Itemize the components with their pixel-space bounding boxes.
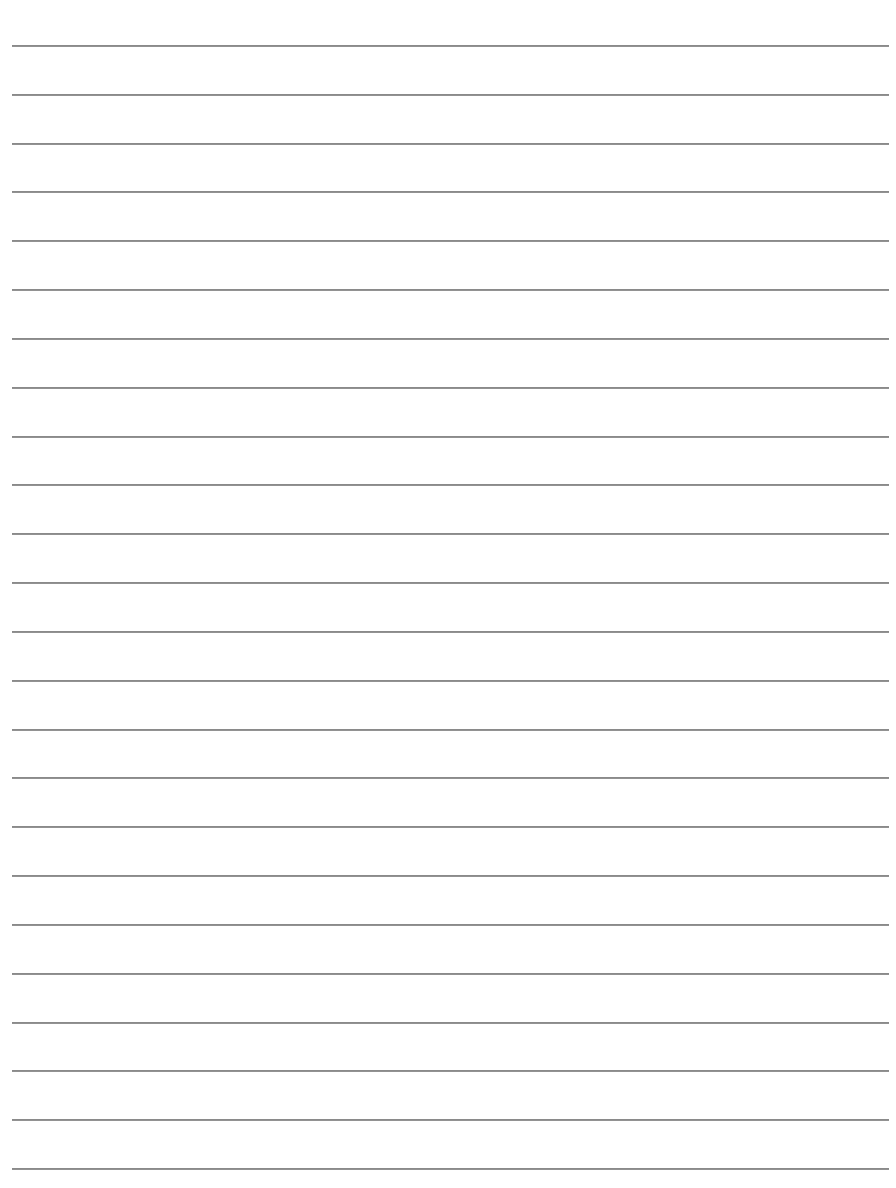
ruled-line — [12, 338, 889, 340]
ruled-line — [12, 240, 889, 242]
ruled-line — [12, 777, 889, 779]
ruled-line — [12, 1119, 889, 1121]
ruled-line — [12, 436, 889, 438]
ruled-line — [12, 484, 889, 486]
ruled-line — [12, 533, 889, 535]
ruled-line — [12, 680, 889, 682]
ruled-line — [12, 1022, 889, 1024]
ruled-line — [12, 973, 889, 975]
ruled-line — [12, 45, 889, 47]
ruled-line — [12, 143, 889, 145]
lined-paper-page — [0, 0, 896, 1188]
ruled-line — [12, 191, 889, 193]
ruled-line — [12, 387, 889, 389]
ruled-line — [12, 631, 889, 633]
ruled-line — [12, 94, 889, 96]
ruled-line — [12, 289, 889, 291]
ruled-line — [12, 826, 889, 828]
ruled-line — [12, 729, 889, 731]
ruled-line — [12, 1070, 889, 1072]
ruled-line — [12, 875, 889, 877]
ruled-line — [12, 1168, 889, 1170]
ruled-line — [12, 582, 889, 584]
ruled-line — [12, 924, 889, 926]
